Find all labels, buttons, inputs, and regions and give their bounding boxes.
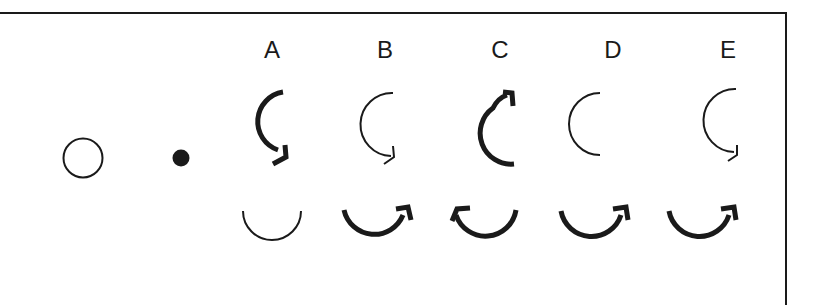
option-a-top-arrow-icon [258,92,286,164]
diagram-canvas [0,0,821,305]
option-e-top-arrow-icon [703,89,737,161]
option-d-bottom-arrow-icon [561,207,628,236]
option-b-bottom-arrow-icon [344,207,411,234]
open-circle-icon [64,139,103,178]
option-a-bottom-arc-icon [243,211,301,240]
option-b-top-arrow-icon [360,93,394,164]
option-d-top-arc-icon [569,93,600,155]
option-c-top-arrow-icon [480,92,514,164]
option-e-bottom-arrow-icon [669,207,736,236]
filled-dot-icon [173,150,190,167]
option-c-bottom-arrow-icon [452,208,516,236]
